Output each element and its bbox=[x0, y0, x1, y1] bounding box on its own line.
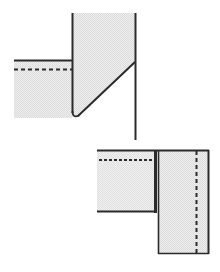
seam-construction-diagram bbox=[0, 0, 220, 272]
right-fabric-panel bbox=[158, 150, 208, 254]
diagram-canvas bbox=[0, 0, 220, 272]
